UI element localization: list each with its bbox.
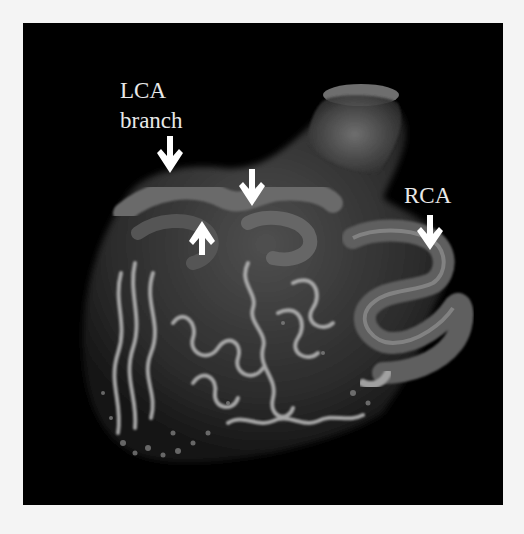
heart-volume-render (23, 23, 503, 505)
lca-mid-arrow-icon (238, 169, 266, 207)
lca-branch-label: LCA branch (120, 78, 183, 133)
lca-label-line2: branch (120, 108, 183, 133)
ct-image-panel: LCA branch RCA (23, 23, 503, 505)
lca-label-line1: LCA (120, 78, 183, 103)
rca-arrow-icon (416, 215, 444, 251)
lca-branch-arrow-icon (156, 136, 184, 174)
rca-label: RCA (404, 183, 451, 208)
lca-up-arrow-icon (188, 221, 216, 255)
